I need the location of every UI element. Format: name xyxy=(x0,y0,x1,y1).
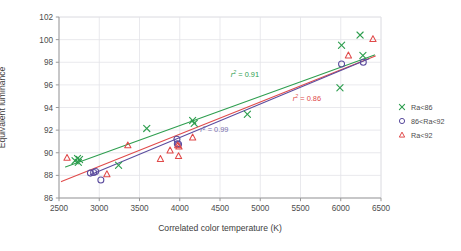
y-tick-label: 94 xyxy=(44,104,54,113)
x-tick-label: 2500 xyxy=(50,204,69,213)
y-tick-label: 92 xyxy=(44,126,54,135)
y-axis-title-line1: Equivalent luminance xyxy=(0,66,7,148)
x-tick-label: 6500 xyxy=(372,204,391,213)
y-tick-label: 90 xyxy=(44,149,54,158)
y-tick-label: 88 xyxy=(44,171,54,180)
x-tick-label: 6000 xyxy=(332,204,351,213)
y-tick-label: 96 xyxy=(44,81,54,90)
x-axis-title: Correlated color temperature (K) xyxy=(158,223,282,233)
legend-label: 86<Ra<92 xyxy=(411,117,445,126)
legend-label: Ra<86 xyxy=(411,103,432,112)
y-axis-title: Equivalent luminance xyxy=(0,66,7,148)
x-tick-label: 5000 xyxy=(251,204,270,213)
legend-label: Ra<92 xyxy=(411,131,432,140)
x-tick-label: 4500 xyxy=(211,204,230,213)
scatter-plot-svg: 2500300035004000450050005500600065008688… xyxy=(0,0,461,251)
x-tick-label: 5500 xyxy=(291,204,310,213)
y-tick-label: 86 xyxy=(44,194,54,203)
y-tick-label: 98 xyxy=(44,58,54,67)
y-tick-label: 100 xyxy=(39,36,53,45)
y-tick-label: 102 xyxy=(39,13,53,22)
x-tick-label: 4000 xyxy=(171,204,190,213)
chart-figure: 2500300035004000450050005500600065008688… xyxy=(0,0,461,251)
x-tick-label: 3000 xyxy=(90,204,109,213)
x-tick-label: 3500 xyxy=(130,204,149,213)
chart-background xyxy=(0,0,461,251)
